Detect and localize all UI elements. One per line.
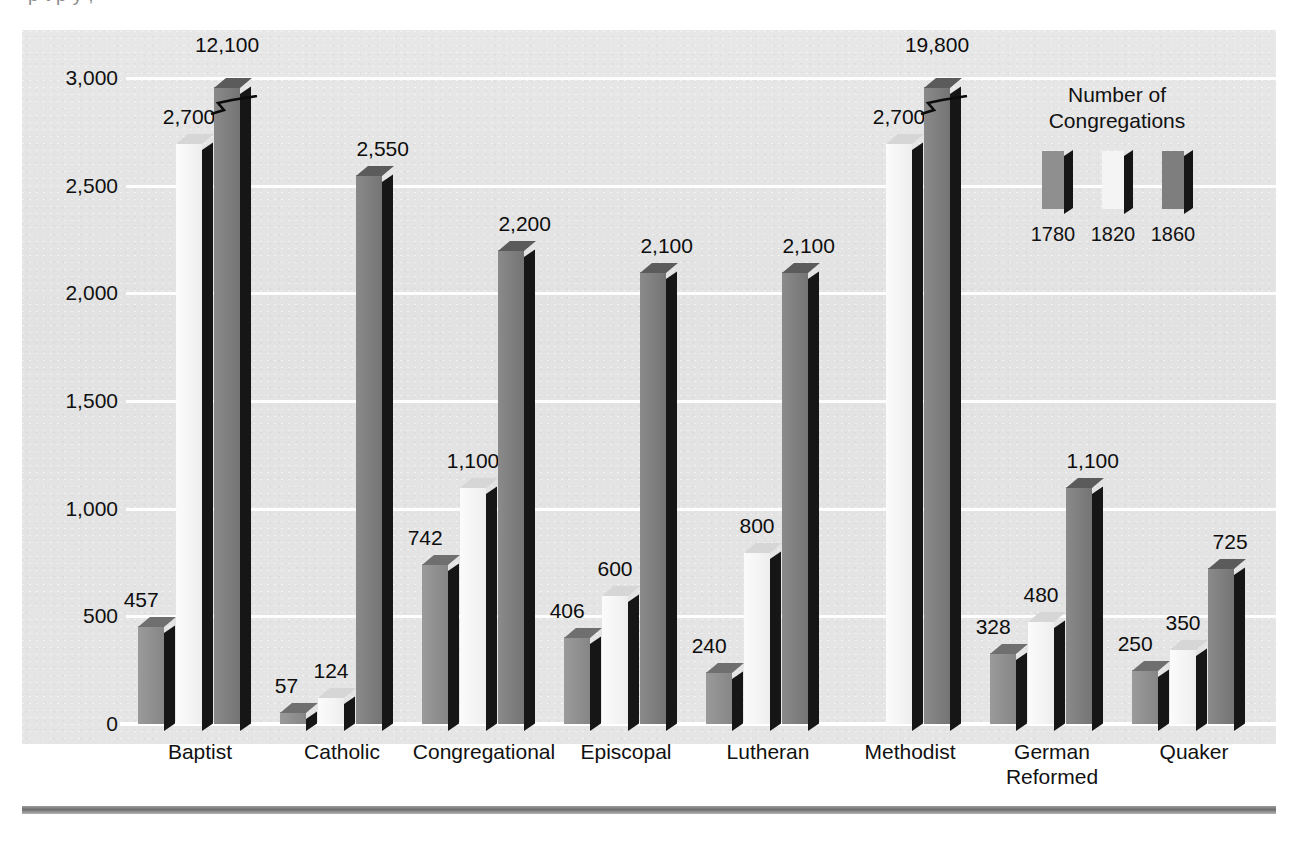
bar-value-label: 124 [313, 659, 348, 683]
bar-value-label: 1,100 [1066, 449, 1119, 473]
legend-swatch-face [1162, 151, 1184, 209]
bottom-rule [22, 806, 1276, 814]
bar-1820-methodist[interactable]: 2,700 [886, 143, 912, 724]
bar-front-face [318, 697, 344, 724]
bar-side-face [950, 86, 961, 731]
bar-1780-catholic[interactable]: 57 [280, 712, 306, 724]
bar-1860-quaker[interactable]: 725 [1208, 568, 1234, 724]
bar-1780-lutheran[interactable]: 240 [706, 672, 732, 724]
bar-top-face [460, 478, 498, 488]
bar-1820-quaker[interactable]: 350 [1170, 649, 1196, 724]
bar-top-face [706, 663, 744, 673]
bar-top-face [1066, 478, 1104, 488]
bar-front-face [886, 143, 912, 724]
bar-value-label: 480 [1023, 583, 1058, 607]
bar-side-face [628, 594, 639, 731]
bar-1780-baptist[interactable]: 457 [138, 626, 164, 724]
bar-top-face [1028, 612, 1066, 622]
chart-plot-area: 05001,0001,5002,0002,5003,0004572,70012,… [22, 30, 1276, 744]
y-axis-tick-label: 500 [26, 604, 118, 628]
bar-front-face [744, 552, 770, 724]
bar-1860-methodist[interactable]: 19,800 [924, 87, 950, 724]
bar-value-label: 600 [597, 557, 632, 581]
y-axis-tick-label: 2,500 [26, 174, 118, 198]
bar-1820-catholic[interactable]: 124 [318, 697, 344, 724]
bar-1820-episcopal[interactable]: 600 [602, 595, 628, 724]
bar-value-label: 2,100 [640, 234, 693, 258]
bar-value-label: 406 [550, 599, 585, 623]
legend-swatch-top [1162, 144, 1194, 152]
bar-1820-lutheran[interactable]: 800 [744, 552, 770, 724]
bar-top-face [782, 263, 820, 273]
y-axis-tick-label: 2,000 [26, 281, 118, 305]
legend-swatch-side [1064, 149, 1073, 213]
bar-top-face [318, 688, 356, 698]
legend-key-label-1780: 1780 [1024, 223, 1082, 246]
bar-side-face [666, 271, 677, 731]
bar-top-face [602, 586, 640, 596]
bar-front-face [138, 626, 164, 724]
bar-1780-congregational[interactable]: 742 [422, 564, 448, 724]
bar-1860-german-reformed[interactable]: 1,100 [1066, 487, 1092, 724]
gridline [126, 400, 1276, 403]
bar-side-face [1054, 620, 1065, 731]
bar-1780-episcopal[interactable]: 406 [564, 637, 590, 724]
bar-value-label: 240 [692, 634, 727, 658]
bar-front-face [924, 87, 950, 724]
chart-legend: Number of Congregations 178018201860 [998, 82, 1236, 249]
chart-panel: 05001,0001,5002,0002,5003,0004572,70012,… [22, 30, 1276, 744]
bar-front-face [422, 564, 448, 724]
legend-key-label-1860: 1860 [1144, 223, 1202, 246]
y-axis-tick-label: 3,000 [26, 66, 118, 90]
bar-1860-episcopal[interactable]: 2,100 [640, 272, 666, 724]
bar-1780-german-reformed[interactable]: 328 [990, 653, 1016, 724]
bar-value-label: 57 [275, 674, 298, 698]
bar-1820-congregational[interactable]: 1,100 [460, 487, 486, 724]
y-axis-tick-label: 1,500 [26, 389, 118, 413]
bar-side-face [1158, 670, 1169, 731]
bar-top-face [1132, 661, 1170, 671]
bar-front-face [706, 672, 732, 724]
legend-title-line1: Number of [998, 82, 1236, 108]
bar-value-label: 2,200 [498, 212, 551, 236]
bar-front-face [214, 87, 240, 724]
bar-1820-german-reformed[interactable]: 480 [1028, 621, 1054, 724]
gridline [126, 292, 1276, 295]
bar-side-face [306, 711, 317, 731]
bar-1780-quaker[interactable]: 250 [1132, 670, 1158, 724]
bar-value-label: 742 [408, 526, 443, 550]
bar-front-face [640, 272, 666, 724]
bar-side-face [486, 487, 497, 731]
bar-1860-lutheran[interactable]: 2,100 [782, 272, 808, 724]
bar-1860-catholic[interactable]: 2,550 [356, 175, 382, 724]
legend-swatches [998, 147, 1236, 223]
bar-value-label: 1,100 [447, 449, 500, 473]
bar-side-face [202, 142, 213, 731]
bar-1860-baptist[interactable]: 12,100 [214, 87, 240, 724]
legend-swatch-1780[interactable] [1042, 151, 1064, 209]
bar-1860-congregational[interactable]: 2,200 [498, 250, 524, 724]
bar-1820-baptist[interactable]: 2,700 [176, 143, 202, 724]
bar-side-face [524, 250, 535, 731]
legend-swatch-side [1184, 149, 1193, 213]
bar-top-face [1170, 640, 1208, 650]
bar-top-face [1208, 559, 1246, 569]
bar-front-face [990, 653, 1016, 724]
legend-swatch-1860[interactable] [1162, 151, 1184, 209]
bar-top-face [422, 555, 460, 565]
legend-title: Number of Congregations [998, 82, 1236, 135]
bar-front-face [280, 712, 306, 724]
legend-swatch-top [1102, 144, 1134, 152]
bar-side-face [1092, 487, 1103, 731]
bar-side-face [1196, 648, 1207, 731]
bar-front-face [176, 143, 202, 724]
legend-swatch-1820[interactable] [1102, 151, 1124, 209]
bar-front-face [1066, 487, 1092, 724]
bar-side-face [808, 271, 819, 731]
bar-value-label: 2,550 [356, 137, 409, 161]
bar-value-label: 2,700 [163, 105, 216, 129]
bar-side-face [770, 551, 781, 731]
bar-side-face [448, 564, 459, 731]
legend-title-line2: Congregations [998, 108, 1236, 134]
bar-front-face [1208, 568, 1234, 724]
